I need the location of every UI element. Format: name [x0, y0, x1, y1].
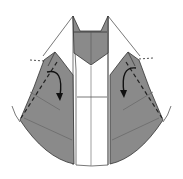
- right-lapel-flap: [110, 52, 163, 164]
- left-lapel-flap: [20, 52, 74, 164]
- origami-diagram: [0, 0, 183, 179]
- right-valley-fold-extension: [139, 58, 153, 59]
- origami-diagram-svg: [0, 0, 183, 179]
- outer-edge-arc-right: [163, 106, 171, 122]
- outer-edge-arc-left: [12, 106, 20, 122]
- left-diagonal-edge: [43, 16, 73, 56]
- right-diagonal-edge: [108, 16, 140, 56]
- left-valley-fold-extension: [30, 60, 44, 61]
